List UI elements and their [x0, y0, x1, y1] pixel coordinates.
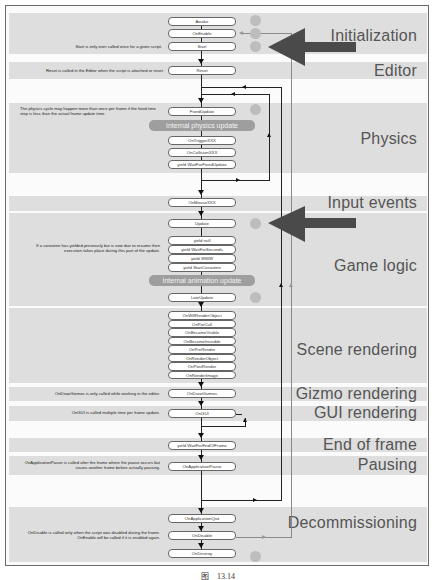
node-yield-startcoroutine: yield StartCoroutine [168, 263, 236, 272]
entry-dot-lateupdate [250, 292, 261, 303]
node-fixedupdate: FixedUpdate [168, 107, 236, 116]
arrowhead-gui-loop [243, 418, 247, 422]
node-onprecull: OnPreCull [168, 320, 236, 329]
frame-loop-line-bottom [201, 500, 282, 501]
arrowhead-to-reset [198, 59, 204, 64]
note-reset: Reset is called in the Editor when the s… [12, 68, 164, 73]
big-arrow-left-initialization-icon [268, 28, 358, 66]
arrowhead-to-scene [198, 302, 204, 307]
section-label-gizmo-rendering: Gizmo rendering [296, 386, 417, 402]
entry-dot-ondestroy [250, 551, 261, 562]
internal-physics-update: Internal physics update [149, 120, 255, 131]
section-label-editor: Editor [374, 63, 417, 79]
arrowhead-into-onenable [239, 31, 243, 35]
arrowhead-to-quit [198, 508, 204, 513]
entry-dot-onenable [250, 28, 261, 39]
arrowhead-physics-up [267, 133, 271, 137]
caption-prefix: 图 [201, 572, 209, 580]
figure-caption: 图13.14 [0, 570, 436, 580]
arrowhead-to-pause [198, 455, 204, 460]
caption-number: 13.14 [217, 572, 235, 580]
note-start: Start is only ever called once for a giv… [12, 44, 162, 49]
arrowhead-disable-return [262, 535, 266, 539]
arrowhead-up-light [289, 283, 293, 287]
node-onpostrender: OnPostRender [168, 362, 236, 371]
arrowhead-to-onmouse [198, 190, 204, 195]
node-onprerender: OnPreRender [168, 345, 236, 354]
note-physics: The physics cycle may happen more than o… [20, 106, 160, 116]
node-yield-waitforendofframe: yield WaitForEndOfFrame [168, 441, 236, 450]
arrowhead-frame-loop-top [242, 85, 246, 89]
node-ondisable: OnDisable [168, 531, 236, 540]
arrowhead-frame-loop-up [279, 283, 283, 287]
section-label-decommissioning: Decommissioning [288, 515, 417, 531]
note-gui: OnGUI is called multiple time per frame … [12, 410, 160, 415]
arrowhead-to-fixedupdate [198, 98, 204, 103]
node-onenable: OnEnable [168, 29, 236, 38]
entry-dot-start [250, 41, 261, 52]
arrowhead-to-gizmos [198, 382, 204, 387]
section-label-gui-rendering: GUI rendering [314, 405, 417, 421]
arrowhead-to-endframe [198, 433, 204, 438]
internal-animation-update: Internal animation update [149, 275, 255, 286]
node-yield-waitforfixedupdate: yield WaitForFixedUpdate [168, 160, 236, 169]
big-arrow-left-update-icon [268, 206, 358, 244]
node-update: Update [168, 219, 236, 228]
section-label-game-logic: Game logic [334, 258, 417, 274]
note-gizmos: OnDrawGizmos is only called while workin… [12, 391, 160, 396]
physics-loop-line [269, 94, 270, 180]
entry-dot-awake [250, 15, 261, 26]
node-onmousexxx: OnMouseXXX [168, 198, 236, 207]
node-onrenderimage: OnRenderImage [168, 371, 236, 380]
node-reset: Reset [168, 66, 236, 75]
arrowhead-physics-bottom [236, 178, 240, 182]
node-ondrawgizmos: OnDrawGizmos [168, 389, 236, 398]
arrowhead-frame-loop-bottom [253, 498, 257, 502]
node-yield-www: yield WWW [168, 254, 236, 263]
section-label-end-of-frame: End of frame [323, 437, 417, 453]
arrowhead-physics-top [231, 92, 235, 96]
node-yield-waitforseconds: yield WaitForSeconds [168, 245, 236, 254]
node-awake: Awake [168, 17, 236, 26]
frame-loop-line [281, 87, 282, 501]
node-onrenderobject: OnRenderObject [168, 354, 236, 363]
physics-loop-line-top [201, 94, 270, 95]
note-disable: OnDisable is called only when the script… [12, 530, 160, 540]
node-onwillrenderobject: OnWillRenderObject [168, 311, 236, 320]
node-ontriggerxxx: OnTriggerXXX [168, 136, 236, 145]
section-label-physics: Physics [360, 131, 417, 147]
note-coroutine: If a coroutine has yielded previously bu… [28, 243, 160, 253]
node-start: Start [168, 42, 236, 51]
node-ongui: OnGUI [168, 409, 236, 418]
node-yield-null: yield null [168, 236, 236, 245]
gui-loop-line-top [236, 414, 242, 415]
node-ondestroy: OnDestroy [168, 549, 236, 558]
node-oncollisionxxx: OnCollisionXXX [168, 148, 236, 157]
arrowhead-to-update [198, 211, 204, 216]
node-onapplicationpause: OnApplicationPause [168, 462, 236, 471]
section-label-scene-rendering: Scene rendering [297, 342, 417, 358]
node-onbecameinvisible: OnBecameInvisible [168, 337, 236, 346]
arrowhead-to-destroy [198, 543, 204, 548]
gui-loop-line-bottom [201, 426, 246, 427]
node-lateupdate: LateUpdate [168, 293, 236, 302]
arrowhead-to-gui [198, 401, 204, 406]
note-pause: OnApplicationPause is called after the f… [12, 460, 160, 470]
section-label-pausing: Pausing [358, 457, 417, 473]
entry-dot-fixedupdate [250, 104, 261, 115]
node-onbecamevisible: OnBecameVisible [168, 328, 236, 337]
entry-dot-update [250, 218, 261, 229]
node-onapplicationquit: OnApplicationQuit [168, 514, 236, 523]
